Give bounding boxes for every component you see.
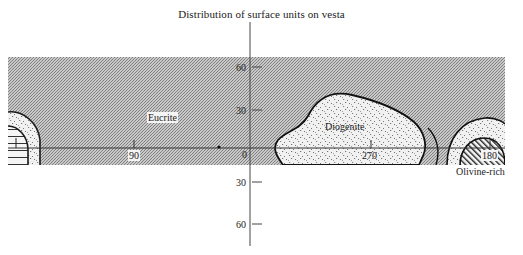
lat-label-30n: 30 bbox=[236, 105, 246, 116]
lat-label-0: 0 bbox=[242, 149, 247, 160]
map-title: Distribution of surface units on vesta bbox=[0, 8, 523, 20]
reference-point bbox=[217, 145, 220, 148]
lat-label-60n: 60 bbox=[236, 62, 246, 73]
lon-label-180: 180 bbox=[481, 150, 498, 161]
lat-label-60s: 60 bbox=[236, 219, 246, 230]
olivine-rich-label: Olivine-rich bbox=[456, 166, 505, 177]
lat-label-30s: 30 bbox=[236, 177, 246, 188]
vesta-surface-map bbox=[0, 0, 523, 255]
lon-label-270: 270 bbox=[362, 150, 377, 161]
eucrite-label: Eucrite bbox=[147, 112, 178, 123]
diogenite-label: Diogenite bbox=[325, 121, 364, 132]
eucrite-region bbox=[8, 57, 505, 165]
lon-label-90: 90 bbox=[128, 150, 140, 161]
